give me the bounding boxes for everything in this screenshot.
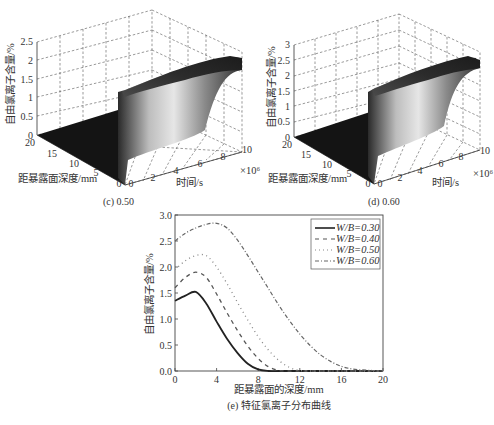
svg-text:3: 3 — [285, 39, 290, 50]
svg-text:2: 2 — [151, 172, 156, 183]
panel-e-legend: W/B=0.30 W/B=0.40 W/B=0.50 W/B=0.60 — [311, 219, 380, 269]
panel-c-z-ticks: 0 0.5 1 1.5 2 2.5 — [21, 36, 34, 141]
panel-e-x-label: 距暴露面的深度/mm — [234, 383, 323, 395]
svg-text:20: 20 — [378, 374, 388, 385]
panel-e-y-ticks: 0.00.51.01.52.02.53.0 — [160, 210, 173, 377]
svg-text:0: 0 — [117, 178, 122, 189]
svg-text:10: 10 — [322, 159, 332, 170]
panel-d-depth-label: 距暴露面深度/mm — [268, 172, 347, 184]
svg-text:8: 8 — [221, 151, 226, 162]
svg-text:2: 2 — [398, 172, 403, 183]
svg-text:1.0: 1.0 — [160, 314, 173, 325]
svg-text:2.5: 2.5 — [160, 236, 173, 247]
legend-item-wb050: W/B=0.50 — [336, 244, 380, 255]
svg-text:0.5: 0.5 — [21, 111, 34, 122]
svg-text:16: 16 — [336, 374, 346, 385]
panel-c-caption: (c) 0.50 — [103, 196, 134, 208]
panel-d-caption: (d) 0.60 — [368, 196, 400, 208]
svg-text:0.5: 0.5 — [160, 340, 173, 351]
svg-text:8: 8 — [459, 151, 464, 162]
svg-text:1.5: 1.5 — [278, 86, 291, 97]
series-line-1 — [175, 272, 383, 371]
svg-text:2: 2 — [285, 70, 290, 81]
panel-c-z-label: 自由氯离子含量/% — [4, 43, 16, 125]
figure: 0 0.5 1 1.5 2 2.5 20 15 10 5 0 0 2 4 6 8… — [0, 0, 494, 425]
panel-c-3d-surface: 0 0.5 1 1.5 2 2.5 20 15 10 5 0 0 2 4 6 8… — [4, 10, 260, 208]
svg-text:0: 0 — [366, 178, 371, 189]
panel-d-time-label: 时间/s — [432, 176, 459, 188]
svg-text:0.5: 0.5 — [278, 116, 291, 127]
panel-d-z-label: 自由氯离子含量/% — [265, 46, 277, 128]
svg-text:3.0: 3.0 — [160, 210, 173, 221]
panel-c-x-multiplier: ×10⁶ — [240, 165, 260, 176]
svg-text:15: 15 — [301, 149, 311, 160]
svg-text:4: 4 — [174, 165, 179, 176]
svg-text:2: 2 — [28, 55, 33, 66]
svg-text:0: 0 — [173, 374, 178, 385]
svg-text:10: 10 — [242, 144, 252, 155]
svg-text:10: 10 — [69, 158, 79, 169]
svg-text:4: 4 — [418, 165, 423, 176]
svg-text:2.5: 2.5 — [278, 55, 291, 66]
svg-text:10: 10 — [480, 145, 490, 156]
legend-item-wb060: W/B=0.60 — [336, 255, 380, 266]
panel-e-y-label: 自由氯离子含量/% — [143, 253, 155, 335]
svg-text:4: 4 — [214, 374, 219, 385]
legend-item-wb040: W/B=0.40 — [336, 233, 380, 244]
svg-text:6: 6 — [439, 158, 444, 169]
svg-text:0: 0 — [378, 178, 383, 189]
svg-text:2.0: 2.0 — [160, 262, 173, 273]
panel-d-x-multiplier: ×10⁶ — [473, 168, 493, 179]
svg-text:20: 20 — [25, 137, 35, 148]
svg-text:20: 20 — [282, 139, 292, 150]
panel-c-time-label: 时间/s — [176, 176, 203, 188]
series-line-2 — [175, 254, 383, 371]
svg-text:0.0: 0.0 — [160, 366, 173, 377]
svg-text:15: 15 — [47, 148, 57, 159]
panel-c-depth-label: 距暴露面深度/mm — [18, 172, 97, 184]
svg-text:2.5: 2.5 — [21, 36, 34, 47]
panel-d-z-ticks: 0 0.5 1 1.5 2 2.5 3 — [278, 39, 291, 143]
svg-text:1.5: 1.5 — [160, 288, 173, 299]
legend-item-wb030: W/B=0.30 — [336, 222, 380, 233]
svg-text:0: 0 — [129, 178, 134, 189]
panel-d-3d-surface: 0 0.5 1 1.5 2 2.5 3 20 15 10 5 0 0 2 4 6… — [265, 14, 493, 208]
svg-text:1.5: 1.5 — [21, 74, 34, 85]
panel-e-caption: (e) 特征氯离子分布曲线 — [227, 399, 331, 412]
svg-text:1: 1 — [285, 101, 290, 112]
series-line-0 — [175, 292, 383, 371]
svg-text:1: 1 — [28, 92, 33, 103]
svg-text:6: 6 — [198, 158, 203, 169]
panel-e-line-chart: 0.00.51.01.52.02.53.0 048121620 W/B=0.30… — [143, 210, 388, 413]
